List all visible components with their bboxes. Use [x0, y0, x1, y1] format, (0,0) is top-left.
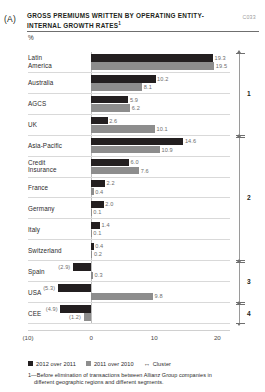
bar-value-label: 8.1	[144, 84, 152, 90]
bar-value-label: 10.9	[162, 147, 173, 153]
category-label: UK	[28, 121, 37, 128]
bar-value-label: 2.2	[107, 180, 115, 186]
category-label: AGCS	[28, 100, 46, 107]
legend-label-cluster: Cluster	[153, 361, 171, 367]
category-label: LatinAmerica	[28, 54, 52, 69]
cluster-axis: 1234	[232, 52, 262, 324]
cluster-number: 1	[247, 90, 251, 97]
bar-2011	[91, 251, 92, 258]
legend-swatch-2012	[28, 361, 33, 366]
chart-title-text: GROSS PREMIUMS WRITTEN BY OPERATING ENTI…	[27, 12, 204, 29]
category-label: Asia-Pacific	[28, 142, 62, 149]
bar-2011	[91, 146, 160, 153]
bar-2012	[91, 138, 183, 145]
bar-value-label: 1.4	[102, 222, 110, 228]
bar-2011	[91, 209, 92, 216]
bar-2011	[91, 62, 214, 69]
bar-2011	[91, 188, 94, 195]
category-label: USA	[28, 289, 41, 296]
cluster-number: 4	[247, 310, 251, 317]
cluster-bracket-cap	[236, 53, 245, 54]
bar-2011	[91, 167, 139, 174]
bar-2011	[91, 230, 92, 237]
bar-2012	[91, 243, 94, 250]
category-label: CreditInsurance	[28, 159, 57, 174]
footnote-line-2: different geographic regions and differe…	[28, 379, 256, 386]
figure-panel: (A) GROSS PREMIUMS WRITTEN BY OPERATING …	[0, 0, 265, 392]
cluster-bracket-cap	[236, 323, 245, 324]
bar-value-label: 0.1	[93, 230, 101, 236]
bar-value-label: 7.6	[141, 168, 149, 174]
row-gridline	[28, 197, 230, 198]
category-label: France	[28, 184, 48, 191]
bar-value-label: 6.2	[132, 105, 140, 111]
bar-2012	[91, 159, 129, 166]
bar-2012	[60, 305, 91, 312]
cluster-bracket-cap	[236, 137, 245, 138]
bar-2011	[84, 313, 92, 320]
bar-2012	[91, 180, 105, 187]
bar-value-label: 10.2	[157, 76, 168, 82]
row-gridline	[28, 93, 230, 94]
title-footnote-marker: 1	[118, 21, 121, 26]
bar-value-label: 2.0	[105, 201, 113, 207]
chart-legend: 2012 over 2011 2011 over 2010 ↔ Cluster	[28, 360, 258, 367]
bar-2012	[91, 222, 100, 229]
bar-value-label: 0.4	[95, 189, 103, 195]
bar-value-label: 0.4	[95, 243, 103, 249]
chart-code: C033	[242, 14, 256, 20]
bar-value-label: 9.8	[155, 293, 163, 299]
x-tick-label: 0	[89, 334, 92, 341]
header-divider	[27, 31, 259, 32]
bar-value-label: 5.9	[130, 97, 138, 103]
bar-value-label: 19.5	[216, 63, 227, 69]
category-label: Spain	[28, 268, 45, 275]
bar-value-label: 0.1	[93, 209, 101, 215]
row-gridline	[28, 72, 230, 73]
bar-2012	[58, 284, 91, 291]
x-axis-line	[28, 330, 230, 331]
bar-2012	[73, 263, 91, 270]
bar-value-label: (4.9)	[46, 306, 58, 312]
cluster-bracket-cap	[236, 304, 245, 305]
page-title: GROSS PREMIUMS WRITTEN BY OPERATING ENTI…	[27, 12, 207, 31]
legend-label-2012: 2012 over 2011	[36, 361, 76, 367]
category-label: Germany	[28, 205, 55, 212]
row-gridline	[28, 114, 230, 115]
footnote-line-1: 1—Before elimination of transactions bet…	[28, 372, 212, 378]
bar-2011	[91, 83, 142, 90]
bar-value-label: 0.3	[95, 272, 103, 278]
bar-value-label: 10.1	[156, 126, 167, 132]
bar-2011	[91, 125, 155, 132]
x-tick-label: 10	[151, 334, 158, 341]
bar-2012	[91, 75, 155, 82]
bar-value-label: (5.3)	[43, 285, 55, 291]
bar-value-label: 2.6	[109, 118, 117, 124]
row-gridline	[28, 260, 230, 261]
bar-2011	[91, 293, 153, 300]
x-tick-label: 20	[214, 334, 221, 341]
row-gridline	[28, 135, 230, 136]
chart-header: GROSS PREMIUMS WRITTEN BY OPERATING ENTI…	[27, 12, 259, 31]
bar-value-label: (2.9)	[58, 264, 70, 270]
bar-value-label: (1.2)	[69, 314, 81, 320]
row-gridline	[28, 218, 230, 219]
unit-label: %	[28, 34, 34, 41]
chart-plot-area: LatinAmerica19.319.5Australia10.28.1AGCS…	[28, 52, 230, 324]
x-tick-label: (10)	[22, 334, 33, 341]
cluster-marker-icon: ↔	[144, 360, 150, 367]
legend-label-2011: 2011 over 2010	[94, 361, 134, 367]
bar-2012	[91, 96, 128, 103]
bar-2011	[91, 272, 93, 279]
legend-swatch-2011	[86, 361, 91, 366]
cluster-bracket-line	[239, 262, 240, 302]
row-gridline	[28, 177, 230, 178]
cluster-bracket-line	[239, 304, 240, 323]
cluster-bracket-cap	[236, 262, 245, 263]
bar-2012	[91, 54, 213, 61]
category-label: Australia	[28, 79, 53, 86]
cluster-bracket-line	[239, 53, 240, 135]
bar-value-label: 0.2	[94, 251, 102, 257]
category-label: CEE	[28, 310, 41, 317]
bar-value-label: 19.3	[215, 55, 226, 61]
